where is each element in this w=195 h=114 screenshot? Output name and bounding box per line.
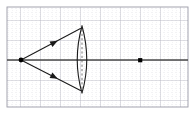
object-point-marker (19, 58, 24, 63)
grid-fill (7, 7, 188, 107)
focal-point-marker (138, 58, 142, 62)
optics-ray-diagram: Converging lens ray diagram (0, 0, 195, 114)
diagram-canvas: Converging lens ray diagram (0, 0, 195, 114)
grid-group (7, 7, 188, 107)
